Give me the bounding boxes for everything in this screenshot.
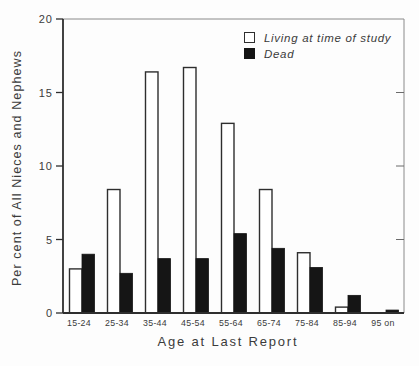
y-tick-label-10: 10 bbox=[39, 160, 53, 172]
legend-label-living: Living at time of study bbox=[264, 32, 391, 44]
x-tick-label-65-74: 65-74 bbox=[257, 318, 281, 328]
x-tick-label-95 on: 95 on bbox=[371, 318, 395, 328]
bar-living-35-44 bbox=[146, 72, 159, 313]
bar-chart-figure: 15-2425-3435-4445-5455-6465-7475-8485-94… bbox=[0, 0, 419, 366]
x-axis-title: Age at Last Report bbox=[158, 334, 299, 349]
x-tick-label-85-94: 85-94 bbox=[333, 318, 357, 328]
x-tick-label-25-34: 25-34 bbox=[105, 318, 129, 328]
bar-dead-35-44 bbox=[158, 259, 171, 313]
bar-dead-45-54 bbox=[196, 259, 209, 313]
bar-living-55-64 bbox=[222, 123, 235, 313]
legend-label-dead: Dead bbox=[264, 48, 294, 60]
x-tick-label-75-84: 75-84 bbox=[295, 318, 319, 328]
bar-dead-25-34 bbox=[120, 273, 133, 313]
bar-living-15-24 bbox=[70, 269, 83, 313]
x-tick-label-35-44: 35-44 bbox=[143, 318, 167, 328]
x-tick-label-55-64: 55-64 bbox=[219, 318, 243, 328]
open-bar-swatch-icon bbox=[244, 32, 255, 43]
legend-item-living: Living at time of study bbox=[244, 31, 391, 44]
y-tick-label-20: 20 bbox=[39, 13, 53, 25]
bar-living-45-54 bbox=[184, 68, 197, 313]
bar-dead-75-84 bbox=[310, 267, 323, 313]
y-tick-label-0: 0 bbox=[46, 307, 53, 319]
bar-living-65-74 bbox=[260, 190, 273, 313]
legend-item-dead: Dead bbox=[244, 47, 391, 60]
y-axis-title: Per cent of All Nieces and Nephews bbox=[10, 50, 24, 286]
bar-dead-15-24 bbox=[82, 254, 95, 313]
bar-dead-65-74 bbox=[272, 248, 285, 313]
x-tick-label-45-54: 45-54 bbox=[181, 318, 205, 328]
solid-bar-swatch-icon bbox=[244, 48, 255, 59]
legend: Living at time of study Dead bbox=[244, 31, 391, 60]
bar-dead-85-94 bbox=[348, 295, 361, 313]
y-tick-label-5: 5 bbox=[46, 234, 53, 246]
x-tick-label-15-24: 15-24 bbox=[67, 318, 91, 328]
y-tick-label-15: 15 bbox=[39, 87, 53, 99]
bar-living-25-34 bbox=[108, 190, 121, 313]
bar-living-75-84 bbox=[298, 253, 311, 313]
bar-dead-55-64 bbox=[234, 234, 247, 313]
